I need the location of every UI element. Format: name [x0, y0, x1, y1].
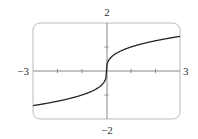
y-min-label: −2 [101, 124, 113, 136]
x-max-label: 3 [183, 65, 189, 77]
x-min-label: −3 [17, 65, 29, 77]
chart: 2 −2 −3 3 [0, 0, 198, 139]
y-max-label: 2 [104, 6, 110, 18]
